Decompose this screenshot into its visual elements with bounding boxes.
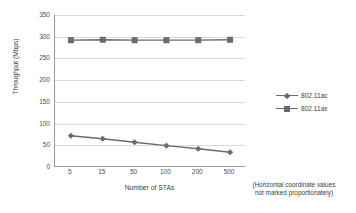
x-axis-tick-labels: 51550100200500 (54, 169, 245, 179)
y-tick-label: 200 (24, 77, 50, 84)
data-point-marker (163, 143, 169, 149)
data-point-marker (227, 149, 233, 155)
legend-label: 802.11ac (301, 92, 328, 99)
y-tick-label: 350 (24, 12, 50, 19)
axis-annotation-line-2: not marked proportionately) (232, 189, 356, 197)
y-tick-label: 50 (24, 142, 50, 149)
data-point-marker (68, 37, 74, 43)
data-point-marker (195, 146, 201, 152)
legend-item-802-11ax[interactable]: 802.11ax (276, 102, 354, 115)
data-point-marker (132, 37, 138, 43)
y-tick-label: 150 (24, 99, 50, 106)
legend-marker-square-icon (276, 104, 298, 113)
axis-annotation-line-1: (Horizontal coordinate values (232, 181, 356, 189)
data-point-marker (195, 37, 201, 43)
x-axis-title: Number of STAs (54, 184, 245, 191)
series-line-802-11ac (71, 136, 230, 152)
data-point-marker (68, 133, 74, 139)
series-container (55, 15, 246, 167)
data-point-marker (100, 136, 106, 142)
y-axis-tick-labels: 050100150200250300350 (22, 15, 50, 167)
y-tick-label: 0 (24, 164, 50, 171)
chart-legend: 802.11ac 802.11ax (276, 89, 354, 115)
legend-marker-diamond-icon (276, 91, 298, 100)
axis-annotation: (Horizontal coordinate values not marked… (232, 181, 356, 198)
y-axis-title: Throughput (Mbps) (12, 29, 19, 105)
legend-item-802-11ac[interactable]: 802.11ac (276, 89, 354, 102)
data-point-marker (163, 37, 169, 43)
legend-label: 802.11ax (301, 105, 328, 112)
y-tick-label: 100 (24, 120, 50, 127)
data-point-marker (100, 37, 106, 43)
data-point-marker (227, 37, 233, 43)
chart-figure: Throughput (Mbps) 050100150200250300350 … (0, 0, 356, 213)
y-tick-label: 300 (24, 33, 50, 40)
plot-area (54, 15, 245, 167)
y-tick-label: 250 (24, 55, 50, 62)
x-tick-label: 500 (209, 169, 249, 176)
data-point-marker (131, 139, 137, 145)
